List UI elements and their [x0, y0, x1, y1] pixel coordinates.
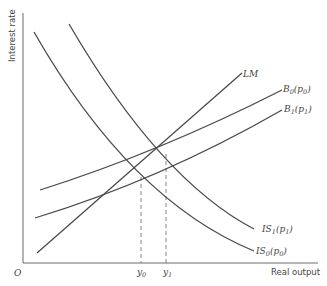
- y1-tick-label: y1: [162, 267, 172, 279]
- y-axis-label: Interest rate: [7, 9, 17, 62]
- is0-label: IS0(p0): [255, 246, 287, 258]
- lm-curve: [37, 73, 242, 253]
- is1-label: IS1(p1): [261, 224, 293, 236]
- lm-label: LM: [242, 69, 259, 79]
- b0-label: B0(p0): [282, 84, 311, 96]
- is-lm-bp-diagram: Interest rate Real output O LM B0(p0) B1…: [0, 0, 327, 286]
- x-axis-label: Real output: [271, 267, 321, 277]
- origin-label: O: [14, 268, 22, 278]
- b1-curve: [35, 110, 282, 218]
- y0-tick-label: y0: [136, 267, 146, 279]
- is0-curve: [34, 32, 254, 251]
- b0-curve: [40, 90, 282, 190]
- b1-label: B1(p1): [283, 104, 312, 116]
